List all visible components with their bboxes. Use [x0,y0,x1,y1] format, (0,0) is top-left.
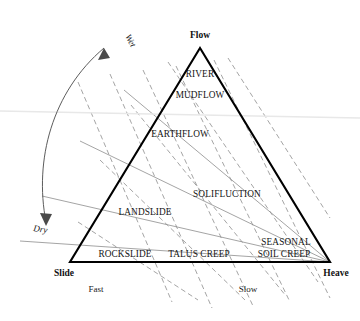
field-label-river: RIVER [186,69,215,79]
landslide-classification-diagram: Flow Slide Heave RIVER MUDFLOW EARTHFLOW… [0,0,360,321]
axis-label-fast: Fast [88,284,104,294]
field-label-solifluction: SOLIFLUCTION [193,189,261,199]
field-label-rockslide: ROCKSLIDE [98,249,151,259]
moisture-label-dry: Dry [32,223,48,235]
vertex-label-slide: Slide [54,268,74,278]
field-label-talus-creep: TALUS CREEP [168,249,230,259]
field-label-seasonal: SEASONAL [261,237,311,247]
field-label-landslide: LANDSLIDE [118,207,171,217]
axis-label-slow: Slow [239,284,258,294]
vertex-label-heave: Heave [323,268,348,278]
field-label-earthflow: EARTHFLOW [151,129,209,139]
field-label-soil-creep: SOIL CREEP [258,249,311,259]
field-label-mudflow: MUDFLOW [176,90,225,100]
vertex-label-flow: Flow [190,30,210,40]
